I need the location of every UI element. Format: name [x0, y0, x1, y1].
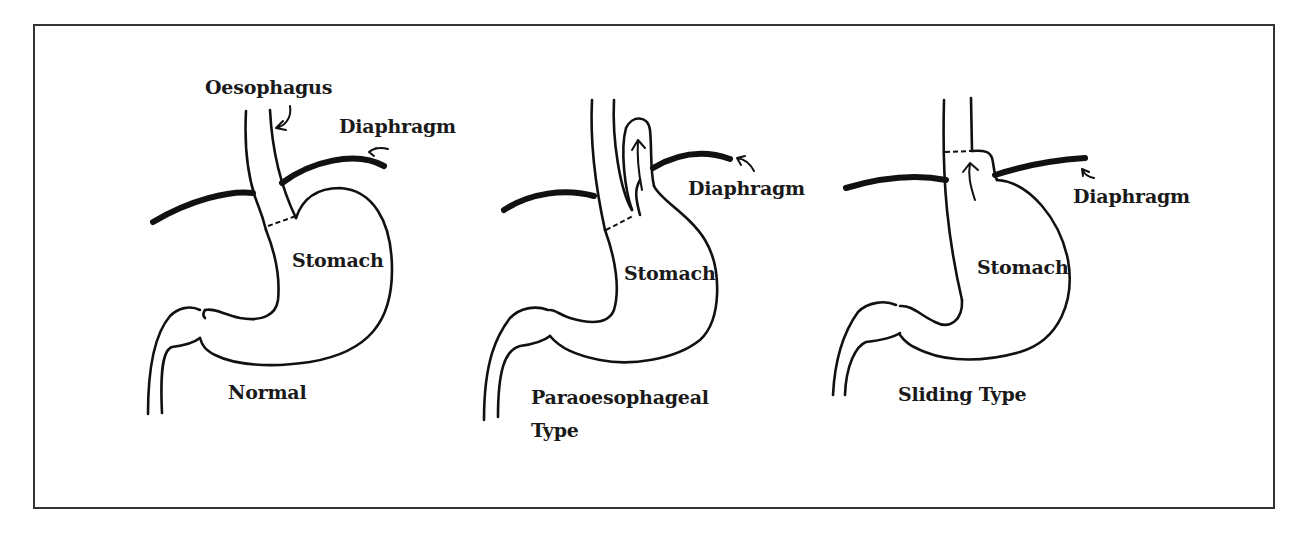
diaphragm-left-normal [153, 192, 253, 222]
panel-paraoesophageal-drawing [484, 100, 754, 420]
diaphragm-left-para [504, 192, 594, 210]
duodenum-inner [161, 338, 200, 413]
pouch-inner-line [636, 180, 640, 215]
gastro-junction-dashed [268, 216, 296, 226]
stomach-lesser-curve-sliding [900, 300, 962, 325]
oesophagus-pointer-arrow [276, 106, 290, 130]
oesophagus-left-wall-para [592, 100, 605, 230]
oesophagus-right-wall [270, 110, 296, 218]
diaphragm-right-normal [282, 159, 384, 183]
panel-sliding-drawing [833, 98, 1094, 395]
gastro-junction-dashed-para [606, 216, 633, 230]
diaphragm-left-sliding [846, 177, 946, 188]
caption-sliding: Sliding Type [898, 383, 1026, 406]
stomach-lesser-curve [205, 230, 279, 319]
label-stomach-para: Stomach [624, 262, 716, 285]
oesophagus-left-wall-sliding [944, 100, 962, 300]
label-oesophagus: Oesophagus [205, 76, 332, 99]
oesophagus-left-wall [246, 111, 267, 230]
label-stomach-normal: Stomach [292, 249, 384, 272]
caption-normal: Normal [228, 381, 306, 404]
herniation-up-arrow-sliding [963, 163, 978, 200]
oesophagus-right-wall-sliding [971, 98, 972, 151]
label-diaphragm-para: Diaphragm [688, 177, 805, 200]
caption-para-line2: Type [531, 419, 579, 442]
diaphragm-right-para [653, 154, 730, 168]
label-diaphragm-normal: Diaphragm [339, 115, 456, 138]
duodenum-outer [148, 308, 200, 414]
diaphragm-right-sliding [995, 158, 1085, 175]
caption-para-line1: Paraoesophageal [531, 386, 709, 409]
duodenum-inner-sliding [845, 333, 900, 395]
gastro-junction-dashed-sliding [945, 151, 972, 152]
label-stomach-sliding: Stomach [977, 256, 1069, 279]
diaphragm-pointer-arrow-para [737, 156, 754, 171]
diaphragm-pointer-arrow-sliding [1082, 169, 1094, 178]
stomach-greater-curve [200, 188, 392, 365]
stomach-lesser-curve-para [550, 230, 617, 322]
label-diaphragm-sliding: Diaphragm [1073, 185, 1190, 208]
duodenum-outer-sliding [833, 302, 896, 395]
diaphragm-pointer-arrow-normal [369, 148, 388, 156]
pylorus-notch-upper [204, 310, 206, 318]
